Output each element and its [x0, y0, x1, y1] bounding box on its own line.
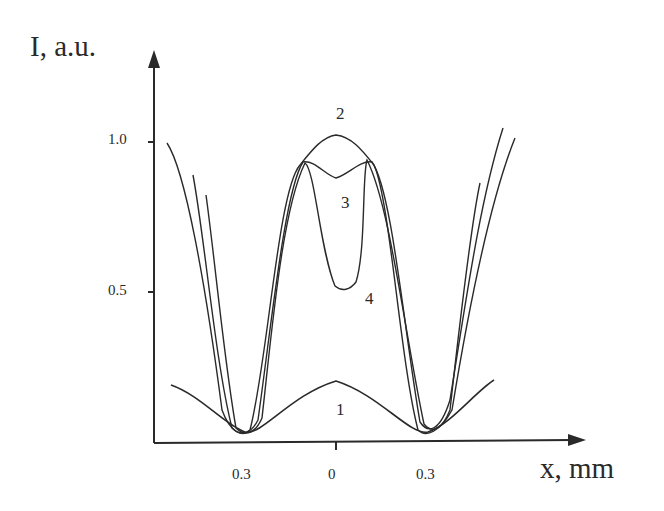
plot-area — [0, 0, 664, 511]
x-axis-line — [154, 440, 572, 443]
y-axis-arrow-icon — [148, 50, 160, 68]
curve-4 — [206, 160, 480, 433]
curve-3 — [193, 128, 503, 433]
x-axis-arrow-icon — [568, 434, 586, 446]
curve-2 — [167, 135, 515, 433]
